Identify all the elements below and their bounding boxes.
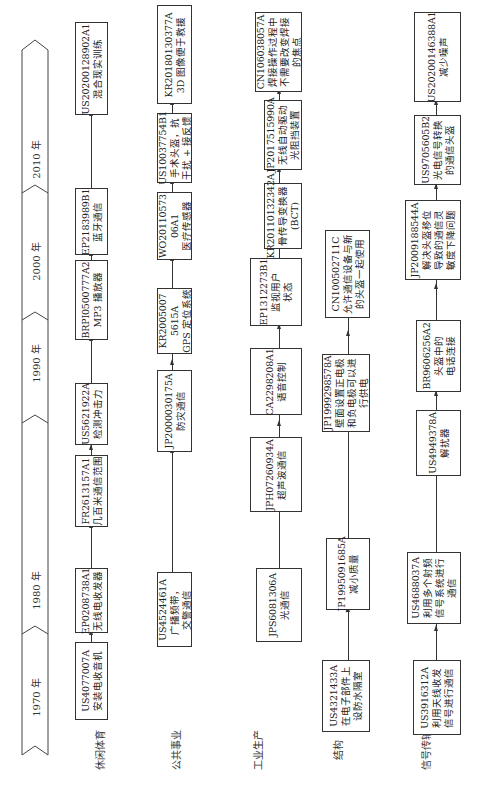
row-label-structure: 结构 <box>330 735 345 765</box>
patent-box-JP2000030175A[interactable]: JP2000030175A防灾通信 <box>157 370 192 452</box>
patent-box-EP0208738A1[interactable]: EP0208738A1无线电收发器 <box>75 568 108 633</box>
patent-box-WO2011057306A1[interactable]: WO2011057306A1医疗传感器 <box>157 192 192 260</box>
patent-box-CN100502711C[interactable]: CN100502711C允许通信设备与新的头盔一起使用 <box>325 230 370 318</box>
timeline-band <box>0 0 482 788</box>
patent-box-JP2017515990A[interactable]: JP2017515990A无线自动驱动光阻挡装置 <box>264 100 302 170</box>
patent-box-US4688037A[interactable]: US4688037A利用多个射频信号系统进行通信 <box>407 552 461 624</box>
era-label-1970: 1970 年 <box>28 676 43 720</box>
arrow-up-icon <box>434 283 438 289</box>
patent-box-CN106038057A[interactable]: CN106038057A焊接操作过程中不需要改变焊接的焦点 <box>255 12 302 92</box>
patent-box-US5621922A[interactable]: US5621922A检测冲击力 <box>75 383 108 445</box>
patent-box-US4524461A[interactable]: US4524461A广播频带，交警通信 <box>157 572 192 647</box>
patent-box-CA2298208A1[interactable]: CA2298208A1语音控制 <box>250 348 302 415</box>
era-label-2010: 2010 年 <box>28 138 43 182</box>
patent-box-US20200146388A1[interactable]: US20200146388A1减少噪声 <box>414 12 461 102</box>
row-label-leisure-sports: 休闲体育 <box>92 725 107 775</box>
patent-box-BRPI0500777A2[interactable]: BRPI0500777A2MP3 播放器 <box>75 260 108 340</box>
era-label-1980: 1980 年 <box>28 569 43 613</box>
era-label-2000: 2000 年 <box>28 240 43 284</box>
patent-box-EP1312273B1[interactable]: EP1312273B1监视用户状态 <box>250 258 302 326</box>
patent-box-FR2613157A1[interactable]: FR2613157A1几百米通信范围 <box>75 455 108 527</box>
patent-box-JP1999298578A[interactable]: JP1999298578A壁面设置正电极和负电极可以进行供电 <box>322 354 370 432</box>
arrow-up-icon <box>170 359 174 365</box>
patent-box-US3916312A[interactable]: US3916312A利用天线收发信号进行通信 <box>413 660 461 735</box>
arrow-up-icon <box>434 625 438 631</box>
patent-box-BR9606256A2[interactable]: BR9606256A2头盔中的电话连接 <box>416 320 461 392</box>
patent-box-KR20180130377A[interactable]: KR20180130377A3D 图像便于救援 <box>157 5 192 104</box>
patent-box-US20200128902A1[interactable]: US20200128902A1混合现实训练 <box>75 22 108 115</box>
arrow-up-icon <box>277 420 281 426</box>
patent-box-US4321433A[interactable]: US4321433A在电子部件上设防水隔室 <box>322 660 370 732</box>
patent-box-JP2009188544A[interactable]: JP2009188544A解决头盔移位导致的通信灵敏度下降问题 <box>405 200 461 280</box>
patent-box-KR20110132342A[interactable]: KR20110132342A骨传导变换器(BCT) <box>264 183 302 249</box>
arrow-up-icon <box>346 330 350 336</box>
patent-box-US4077007A[interactable]: US4077007A安装电收音机 <box>75 642 108 720</box>
patent-box-JPS6081306A[interactable]: JPS6081306A光通信 <box>256 568 302 642</box>
patent-box-KR20050075615A[interactable]: KR20050075615AGPS 定位系统 <box>157 288 192 354</box>
patent-box-US4949378A[interactable]: US4949378A解扰器 <box>416 410 461 476</box>
patent-box-JPH07260934A[interactable]: JPH07260934A超声波通信 <box>250 437 302 512</box>
patent-box-EP2183989B1[interactable]: EP2183989B1蓝牙通信 <box>75 188 108 255</box>
row-label-public-utilities: 公共事业 <box>168 725 183 775</box>
patent-box-US9705605B2[interactable]: US9705605B2光电信号转换的通信头盔 <box>414 115 461 185</box>
patent-box-JP1995091685A[interactable]: JP1995091685A减小质量 <box>326 538 370 610</box>
row-label-industrial-production: 工业生产 <box>250 725 265 775</box>
patent-box-US10037754B1[interactable]: US10037754B1手术头盔，抗干扰 + 接反馈 <box>157 113 192 183</box>
era-label-1990: 1990 年 <box>28 342 43 386</box>
